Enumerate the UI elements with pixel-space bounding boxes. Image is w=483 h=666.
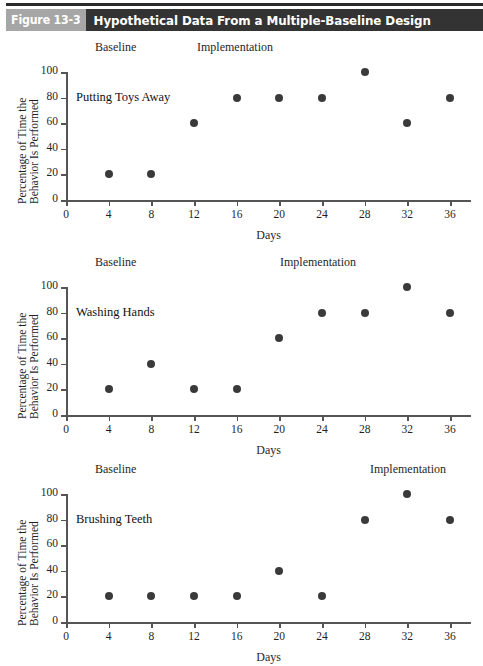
x-tick xyxy=(237,201,239,206)
x-tick xyxy=(151,201,153,206)
y-tick-label: 80 xyxy=(26,90,58,102)
x-axis-label: Days xyxy=(66,443,471,458)
y-axis-line xyxy=(66,494,68,623)
figure-number-label: Figure 13-3 xyxy=(11,13,80,27)
x-tick xyxy=(66,201,68,206)
x-tick xyxy=(450,416,452,421)
x-tick-label: 4 xyxy=(94,423,124,435)
data-point xyxy=(190,385,198,393)
x-tick xyxy=(279,623,281,628)
x-tick xyxy=(109,623,111,628)
data-point xyxy=(446,309,454,317)
data-point xyxy=(446,94,454,102)
y-tick xyxy=(61,313,66,315)
x-tick-label: 12 xyxy=(179,630,209,642)
data-point xyxy=(318,592,326,600)
x-axis-line xyxy=(66,415,471,417)
figure-title-box: Hypothetical Data From a Multiple-Baseli… xyxy=(86,9,483,31)
y-tick-label: 100 xyxy=(26,64,58,76)
x-tick xyxy=(407,416,409,421)
x-axis-label: Days xyxy=(66,650,471,665)
x-tick xyxy=(194,201,196,206)
figure-title: Hypothetical Data From a Multiple-Baseli… xyxy=(86,13,431,28)
x-tick xyxy=(66,416,68,421)
x-tick xyxy=(237,623,239,628)
x-tick-label: 32 xyxy=(392,423,422,435)
y-tick xyxy=(61,571,66,573)
x-tick xyxy=(237,416,239,421)
y-tick-label: 80 xyxy=(26,305,58,317)
x-axis-label: Days xyxy=(66,228,471,243)
y-tick xyxy=(61,596,66,598)
x-tick-label: 24 xyxy=(307,208,337,220)
data-point xyxy=(403,283,411,291)
phase-label-baseline: Baseline xyxy=(95,462,136,477)
data-point xyxy=(318,94,326,102)
chart-panel-brushing-teeth: BaselineImplementationPercentage of Time… xyxy=(0,458,483,665)
x-tick-label: 20 xyxy=(264,208,294,220)
data-point xyxy=(147,170,155,178)
x-tick-label: 32 xyxy=(392,630,422,642)
x-tick-label: 28 xyxy=(350,630,380,642)
data-point xyxy=(190,119,198,127)
x-tick-label: 16 xyxy=(222,423,252,435)
data-point xyxy=(318,309,326,317)
figure-header: Figure 13-3 Hypothetical Data From a Mul… xyxy=(0,0,483,34)
y-axis-line xyxy=(66,287,68,416)
x-tick-label: 16 xyxy=(222,208,252,220)
y-tick-label: 40 xyxy=(26,563,58,575)
y-tick xyxy=(61,72,66,74)
y-tick-label: 40 xyxy=(26,356,58,368)
x-tick xyxy=(322,623,324,628)
y-tick-label: 20 xyxy=(26,381,58,393)
y-tick-label: 20 xyxy=(26,588,58,600)
x-tick-label: 36 xyxy=(435,208,465,220)
y-tick-label: 0 xyxy=(26,614,58,626)
y-tick xyxy=(61,520,66,522)
series-label: Brushing Teeth xyxy=(76,512,152,527)
y-tick xyxy=(61,494,66,496)
y-tick-label: 100 xyxy=(26,486,58,498)
x-tick xyxy=(279,416,281,421)
y-tick xyxy=(61,338,66,340)
x-tick-label: 8 xyxy=(136,630,166,642)
y-tick xyxy=(61,389,66,391)
x-tick xyxy=(109,416,111,421)
y-tick xyxy=(61,545,66,547)
data-point xyxy=(233,592,241,600)
x-tick-label: 36 xyxy=(435,423,465,435)
data-point xyxy=(361,309,369,317)
x-tick-label: 12 xyxy=(179,423,209,435)
data-point xyxy=(275,567,283,575)
chart-panel-washing-hands: BaselineImplementationPercentage of Time… xyxy=(0,251,483,458)
x-tick xyxy=(194,623,196,628)
y-tick-label: 100 xyxy=(26,279,58,291)
phase-label-implementation: Implementation xyxy=(280,255,356,270)
x-tick-label: 28 xyxy=(350,208,380,220)
data-point xyxy=(403,490,411,498)
data-point xyxy=(190,592,198,600)
x-axis-line xyxy=(66,622,471,624)
x-tick-label: 0 xyxy=(51,630,81,642)
data-point xyxy=(361,68,369,76)
data-point xyxy=(147,360,155,368)
x-tick-label: 24 xyxy=(307,630,337,642)
header-rule xyxy=(6,3,483,6)
y-tick-label: 60 xyxy=(26,330,58,342)
x-tick xyxy=(365,201,367,206)
y-tick xyxy=(61,364,66,366)
data-point xyxy=(361,516,369,524)
y-tick xyxy=(61,287,66,289)
x-tick-label: 4 xyxy=(94,208,124,220)
x-tick-label: 12 xyxy=(179,208,209,220)
chart-panel-putting-toys-away: BaselineImplementationPercentage of Time… xyxy=(0,36,483,243)
y-tick-label: 0 xyxy=(26,192,58,204)
figure-number-box: Figure 13-3 xyxy=(6,9,86,31)
x-tick-label: 8 xyxy=(136,208,166,220)
x-tick xyxy=(322,416,324,421)
x-tick-label: 24 xyxy=(307,423,337,435)
x-tick xyxy=(407,201,409,206)
y-tick xyxy=(61,174,66,176)
y-tick-label: 60 xyxy=(26,115,58,127)
data-point xyxy=(105,592,113,600)
